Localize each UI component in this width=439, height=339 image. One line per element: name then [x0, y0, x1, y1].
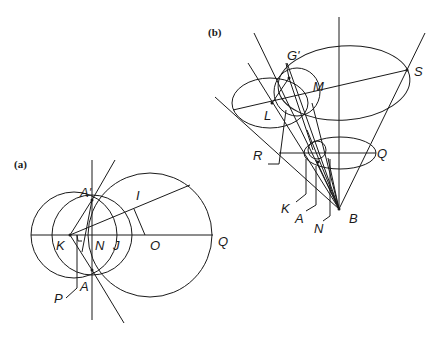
point-b: [338, 208, 341, 211]
label-aprime: A': [79, 185, 92, 200]
tangent-line-lower: [92, 270, 124, 323]
label-q: Q: [218, 234, 228, 249]
point-l: [271, 102, 274, 105]
panel-b: (b): [208, 17, 425, 236]
point-a: [91, 269, 94, 272]
panel-a-label: (a): [14, 158, 27, 171]
label-a-b: A: [294, 211, 304, 226]
label-gprime: G': [287, 48, 300, 63]
ray-b-4: [307, 130, 339, 209]
segment-i-o: [134, 209, 145, 235]
point-g: [288, 77, 291, 80]
panel-a: (a) A' I K N J O Q P: [14, 158, 228, 323]
ray-b-5: [316, 160, 339, 209]
label-k-b: K: [281, 201, 291, 216]
point-a-b: [317, 161, 320, 164]
label-k: K: [56, 238, 66, 253]
label-n-b: N: [314, 221, 324, 236]
label-m: M: [313, 79, 324, 94]
point-s: [406, 69, 409, 72]
label-b: B: [349, 211, 358, 226]
label-s: S: [414, 64, 423, 79]
ray-b-2: [248, 63, 339, 209]
label-a: A: [79, 279, 89, 294]
right-angle-mark: [77, 235, 82, 241]
label-q-b: Q: [377, 146, 387, 161]
leader-k: [296, 159, 306, 202]
geometry-figure: (a) A' I K N J O Q P: [0, 0, 439, 339]
label-n: N: [95, 238, 105, 253]
cone-right-side: [339, 33, 425, 209]
label-l: L: [264, 108, 271, 123]
label-p: P: [54, 291, 63, 306]
label-o: O: [150, 238, 160, 253]
label-r: R: [253, 148, 262, 163]
label-i: I: [136, 188, 140, 203]
label-j: J: [112, 238, 120, 253]
leader-a: [306, 166, 316, 211]
point-k: [69, 234, 72, 237]
panel-b-label: (b): [208, 26, 222, 39]
